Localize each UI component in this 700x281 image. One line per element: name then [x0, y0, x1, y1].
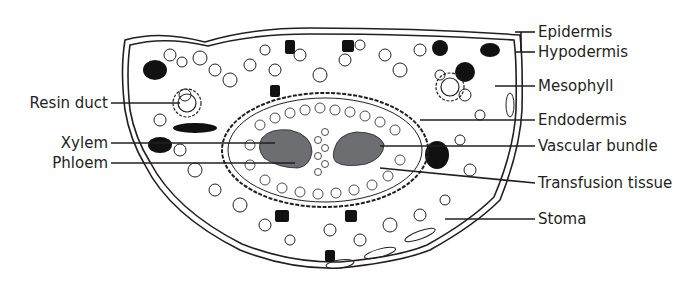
dark-cells [143, 40, 500, 262]
label-stoma: Stoma [538, 210, 586, 228]
resin-ducts [173, 73, 464, 117]
label-vascular-bundle: Vascular bundle [538, 137, 658, 155]
label-transfusion-tissue: Transfusion tissue [538, 174, 672, 192]
label-resin-duct: Resin duct [18, 94, 108, 112]
label-phloem: Phloem [18, 154, 108, 172]
label-xylem: Xylem [18, 134, 108, 152]
label-hypodermis: Hypodermis [538, 43, 628, 61]
leader-lines [111, 32, 535, 219]
label-epidermis: Epidermis [538, 23, 612, 41]
label-endodermis: Endodermis [538, 111, 627, 129]
label-mesophyll: Mesophyll [538, 77, 613, 95]
endodermis [222, 93, 428, 207]
